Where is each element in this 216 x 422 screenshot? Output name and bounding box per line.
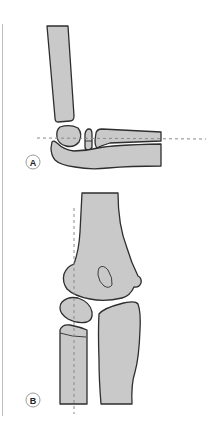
panel-a: A — [26, 26, 206, 169]
radial-head-a — [85, 129, 92, 150]
elbow-diagram: A B — [0, 0, 216, 422]
capitellum-a — [57, 126, 81, 147]
panel-a-label: A — [30, 158, 37, 168]
panel-b-label: B — [30, 396, 37, 406]
ulna-b — [99, 302, 141, 404]
capitellum-b — [60, 298, 92, 323]
humerus-shaft-a — [47, 26, 74, 122]
panel-b: B — [26, 193, 141, 414]
